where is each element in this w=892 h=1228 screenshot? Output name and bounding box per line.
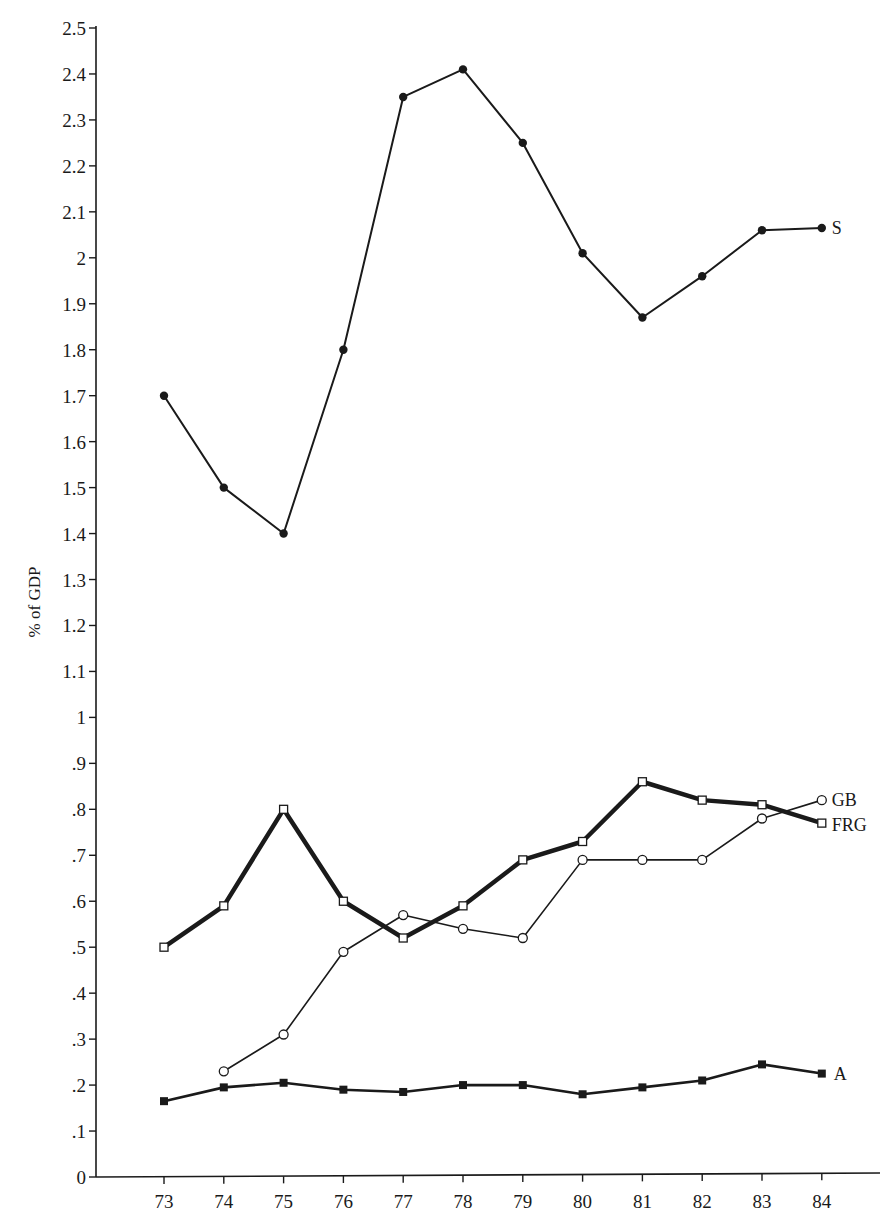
y-tick-label: 2.2 (62, 156, 86, 177)
y-tick-label: 1.1 (62, 661, 86, 682)
y-tick-label: 1.7 (62, 386, 86, 407)
open-square-marker (220, 902, 228, 910)
y-tick-label: 1 (77, 707, 87, 728)
series-label-s: S (832, 218, 842, 238)
filled-circle-marker (339, 346, 347, 354)
series-a: A (160, 1060, 847, 1105)
filled-circle-marker (459, 65, 467, 73)
filled-circle-marker (160, 391, 168, 399)
open-circle-marker (758, 814, 767, 823)
open-circle-marker (459, 924, 468, 933)
open-square-marker (160, 943, 168, 951)
filled-square-marker (519, 1081, 527, 1089)
x-tick-label: 73 (155, 1191, 174, 1212)
y-tick-label: .3 (72, 1029, 86, 1050)
y-axis: 0.1.2.3.4.5.6.7.8.911.11.21.31.41.51.61.… (62, 18, 96, 1188)
x-axis: 737475767778798081828384 (96, 1173, 880, 1212)
open-square-marker (698, 796, 706, 804)
open-square-marker (579, 837, 587, 845)
series-layer: GBFRGAS (160, 65, 867, 1105)
y-tick-label: 0 (77, 1167, 87, 1188)
filled-square-marker (818, 1070, 826, 1078)
series-frg: FRG (160, 778, 867, 951)
y-tick-label: .1 (72, 1121, 86, 1142)
series-s: S (160, 65, 842, 538)
filled-square-marker (399, 1088, 407, 1096)
filled-square-marker (220, 1083, 228, 1091)
y-tick-label: .4 (72, 983, 87, 1004)
y-tick-label: 1.8 (62, 340, 86, 361)
series-label-a: A (834, 1064, 847, 1084)
x-tick-label: 84 (812, 1191, 832, 1212)
series-gb: GB (219, 790, 857, 1076)
filled-square-marker (698, 1076, 706, 1084)
open-circle-marker (339, 947, 348, 956)
series-line (164, 69, 822, 533)
x-tick-label: 83 (753, 1191, 772, 1212)
filled-circle-marker (578, 249, 586, 257)
filled-square-marker (638, 1083, 646, 1091)
x-tick-label: 80 (573, 1191, 592, 1212)
y-tick-label: 1.2 (62, 615, 86, 636)
filled-circle-marker (519, 139, 527, 147)
x-tick-label: 82 (693, 1191, 712, 1212)
y-tick-label: 2.5 (62, 18, 86, 39)
open-circle-marker (638, 855, 647, 864)
y-axis-label: % of GDP (25, 567, 44, 638)
open-circle-marker (698, 855, 707, 864)
y-tick-label: 2.1 (62, 202, 86, 223)
open-circle-marker (279, 1030, 288, 1039)
open-circle-marker (399, 911, 408, 920)
filled-circle-marker (698, 272, 706, 280)
open-square-marker (399, 934, 407, 942)
y-tick-label: .7 (72, 845, 86, 866)
open-square-marker (818, 819, 826, 827)
open-square-marker (519, 856, 527, 864)
x-tick-label: 78 (454, 1191, 473, 1212)
open-circle-marker (578, 855, 587, 864)
x-tick-label: 76 (334, 1191, 353, 1212)
filled-circle-marker (638, 313, 646, 321)
y-tick-label: 1.4 (62, 524, 86, 545)
open-circle-marker (817, 796, 826, 805)
filled-circle-marker (220, 483, 228, 491)
x-tick-label: 75 (274, 1191, 293, 1212)
series-label-frg: FRG (832, 815, 867, 835)
y-tick-label: 1.6 (62, 432, 86, 453)
open-square-marker (339, 897, 347, 905)
line-chart: 0.1.2.3.4.5.6.7.8.911.11.21.31.41.51.61.… (0, 0, 892, 1228)
y-tick-label: .6 (72, 891, 86, 912)
y-tick-label: 2.4 (62, 64, 86, 85)
open-square-marker (459, 902, 467, 910)
y-tick-label: 1.5 (62, 478, 86, 499)
x-tick-label: 81 (633, 1191, 652, 1212)
y-tick-label: .9 (72, 753, 86, 774)
y-tick-label: .5 (72, 937, 86, 958)
filled-circle-marker (758, 226, 766, 234)
filled-square-marker (160, 1097, 168, 1105)
series-line (164, 782, 822, 947)
open-circle-marker (518, 934, 527, 943)
y-tick-label: .2 (72, 1075, 86, 1096)
series-line (164, 1064, 822, 1101)
filled-circle-marker (279, 529, 287, 537)
filled-circle-marker (818, 224, 826, 232)
series-label-gb: GB (832, 790, 857, 810)
y-tick-label: 1.9 (62, 294, 86, 315)
open-square-marker (758, 801, 766, 809)
filled-square-marker (579, 1090, 587, 1098)
open-square-marker (638, 778, 646, 786)
filled-square-marker (758, 1060, 766, 1068)
filled-square-marker (459, 1081, 467, 1089)
x-tick-label: 74 (214, 1191, 234, 1212)
x-tick-label: 79 (513, 1191, 532, 1212)
filled-square-marker (280, 1079, 288, 1087)
filled-circle-marker (399, 93, 407, 101)
x-tick-label: 77 (394, 1191, 413, 1212)
y-tick-label: 2 (77, 248, 87, 269)
open-square-marker (280, 805, 288, 813)
y-tick-label: 2.3 (62, 110, 86, 131)
y-tick-label: 1.3 (62, 570, 86, 591)
y-tick-label: .8 (72, 799, 86, 820)
open-circle-marker (219, 1067, 228, 1076)
